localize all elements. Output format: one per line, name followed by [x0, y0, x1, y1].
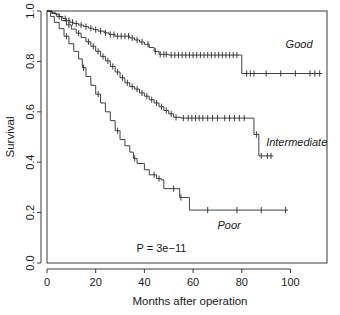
x-axis-tick-label: 80: [236, 276, 248, 288]
y-axis-tick-label: 0.6: [24, 104, 36, 119]
x-axis-tick-label: 100: [281, 276, 299, 288]
survival-chart-figure: 0.00.20.40.60.81.0 020406080100 GoodInte…: [0, 0, 340, 315]
p-value-annotation: P = 3e−11: [137, 242, 187, 254]
y-axis-tick-label: 0.0: [24, 255, 36, 270]
series-label-poor: Poor: [217, 219, 242, 231]
series-label-good: Good: [286, 38, 314, 50]
y-axis-tick-label: 0.8: [24, 54, 36, 69]
x-axis-tick-label: 40: [138, 276, 150, 288]
series-label-intermediate: Intermediate: [266, 136, 327, 148]
y-axis-tick-label: 0.4: [24, 155, 36, 170]
y-axis-tick-label: 1.0: [24, 3, 36, 18]
survival-chart-svg: 0.00.20.40.60.81.0 020406080100 GoodInte…: [0, 0, 340, 315]
y-axis-tick-label: 0.2: [24, 205, 36, 220]
x-axis-tick-label: 60: [187, 276, 199, 288]
x-axis-tick-label: 20: [90, 276, 102, 288]
x-axis-title: Months after operation: [132, 295, 247, 307]
y-axis-title: Survival: [4, 117, 16, 158]
x-axis-tick-label: 0: [44, 276, 50, 288]
